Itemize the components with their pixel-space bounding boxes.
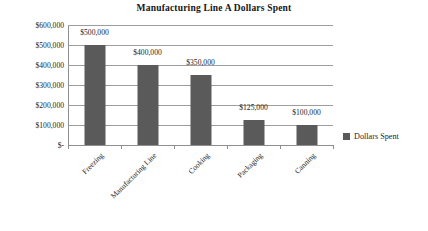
y-tick-label: $100,000: [6, 121, 64, 130]
y-tick-label: $-: [6, 141, 64, 150]
x-tick-mark: [333, 145, 334, 149]
x-tick-mark: [121, 145, 122, 149]
bar-group: $100,000: [280, 25, 333, 145]
x-axis-line: [68, 145, 334, 146]
y-tick-label: $600,000: [6, 21, 64, 30]
x-tick-mark: [280, 145, 281, 149]
bar-group: $500,000: [68, 25, 121, 145]
y-tick-label: $500,000: [6, 41, 64, 50]
legend-swatch-icon: [343, 133, 350, 140]
bar-group: $400,000: [121, 25, 174, 145]
bar-group: $125,000: [227, 25, 280, 145]
bar-value-label: $100,000: [292, 108, 320, 117]
legend: Dollars Spent: [343, 132, 399, 141]
bar[interactable]: [190, 75, 211, 145]
legend-label: Dollars Spent: [354, 132, 399, 141]
x-tick-mark: [68, 145, 69, 149]
y-tick-label: $400,000: [6, 61, 64, 70]
chart-title: Manufacturing Line A Dollars Spent: [0, 3, 428, 13]
bar[interactable]: [243, 120, 264, 145]
bar-value-label: $350,000: [186, 58, 214, 67]
y-tick-label: $300,000: [6, 81, 64, 90]
bar[interactable]: [137, 65, 158, 145]
bar-group: $350,000: [174, 25, 227, 145]
x-tick-mark: [174, 145, 175, 149]
y-tick-label: $200,000: [6, 101, 64, 110]
bar[interactable]: [296, 125, 317, 145]
bar-value-label: $400,000: [133, 48, 161, 57]
bar-value-label: $500,000: [80, 28, 108, 37]
bar-value-label: $125,000: [239, 103, 267, 112]
bar-chart: Manufacturing Line A Dollars Spent $600,…: [0, 0, 428, 231]
x-tick-mark: [227, 145, 228, 149]
plot-area: $500,000 $400,000 $350,000 $125,000 $100…: [68, 25, 333, 145]
bar[interactable]: [84, 45, 105, 145]
